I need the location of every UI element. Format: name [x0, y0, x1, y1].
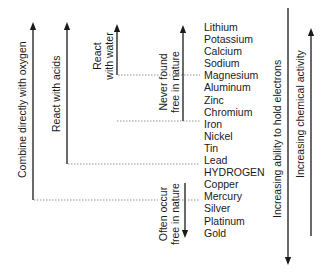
label-never-free-line1: Never found	[157, 44, 169, 120]
element-platinum: Platinum	[204, 215, 265, 227]
label-react-water-line1: React	[91, 26, 103, 86]
element-zinc: Zinc	[204, 94, 265, 106]
element-nickel: Nickel	[204, 130, 265, 142]
element-tin: Tin	[204, 142, 265, 154]
label-chemical-activity: Increasing chemical activity	[294, 50, 306, 178]
element-calcium: Calcium	[204, 45, 265, 57]
element-iron: Iron	[204, 118, 265, 130]
label-react-water: React with water	[91, 26, 115, 86]
element-silver: Silver	[204, 202, 265, 214]
label-never-free: Never found free in nature	[157, 44, 181, 120]
element-chromium: Chromium	[204, 106, 265, 118]
label-often-free-line1: Often occur	[157, 176, 169, 252]
label-hold-electrons: Increasing ability to hold electrons	[271, 60, 283, 218]
element-lead: Lead	[204, 154, 265, 166]
element-magnesium: Magnesium	[204, 69, 265, 81]
element-hydrogen: HYDROGEN	[204, 166, 265, 178]
element-copper: Copper	[204, 178, 265, 190]
element-sodium: Sodium	[204, 57, 265, 69]
element-mercury: Mercury	[204, 190, 265, 202]
label-never-free-line2: free in nature	[169, 44, 181, 120]
element-lithium: Lithium	[204, 21, 265, 33]
element-gold: Gold	[204, 227, 265, 239]
label-combine-oxygen: Combine directly with oxygen	[16, 41, 28, 178]
label-often-free-line2: free in nature	[169, 176, 181, 252]
label-react-water-line2: with water	[103, 26, 115, 86]
element-aluminum: Aluminum	[204, 81, 265, 93]
element-potassium: Potassium	[204, 33, 265, 45]
element-list: Lithium Potassium Calcium Sodium Magnesi…	[204, 21, 265, 239]
label-react-acids: React with acids	[50, 56, 62, 132]
label-often-free: Often occur free in nature	[157, 176, 181, 252]
